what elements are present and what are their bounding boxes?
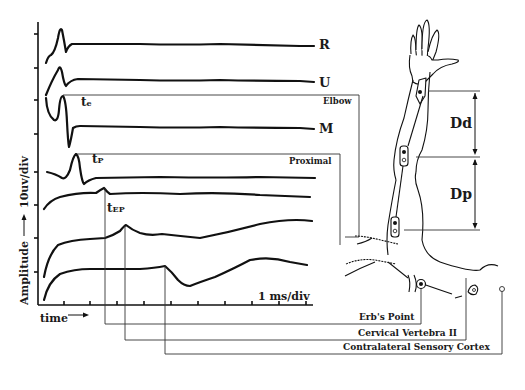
trace-label-r: R <box>319 37 330 52</box>
distance-label-dd: Dd <box>450 115 472 131</box>
connector-cervical <box>125 226 466 340</box>
site-label-erbs-point: Erb's Point <box>359 312 415 322</box>
trace-erbs-point <box>44 188 310 209</box>
arm-illustration <box>345 20 505 298</box>
y-axis <box>34 22 38 305</box>
sep-diagram: 10uv/div Amplitude time 1 ms/div R U M t… <box>0 0 525 390</box>
x-axis-label: time <box>40 312 68 325</box>
distance-label-dp: Dp <box>450 186 472 202</box>
trace-u <box>46 67 314 95</box>
site-label-cortex: Contralateral Sensory Cortex <box>343 342 490 352</box>
latency-tp: tP <box>92 152 104 166</box>
y-axis-label: Amplitude <box>18 241 31 306</box>
site-label-proximal: Proximal <box>289 156 332 166</box>
connector-elbow <box>63 95 359 237</box>
connector-proximal <box>77 154 340 245</box>
trace-label-m: M <box>319 121 333 136</box>
y-arrow-icon <box>22 214 27 236</box>
distance-markers <box>404 91 480 230</box>
x-scale-label: 1 ms/div <box>258 290 310 303</box>
connector-erbs-point <box>105 188 421 324</box>
latency-te: te <box>81 95 92 109</box>
trace-r <box>46 29 314 63</box>
trace-label-u: U <box>319 75 331 90</box>
trace-proximal <box>47 154 315 184</box>
latency-tep: tEP <box>107 201 125 215</box>
site-label-elbow: Elbow <box>323 96 352 106</box>
y-scale-label: 10uv/div <box>18 155 31 208</box>
site-label-cervical: Cervical Vertebra II <box>358 328 457 338</box>
connector-cortex <box>165 266 502 354</box>
x-arrow-icon <box>68 313 89 318</box>
